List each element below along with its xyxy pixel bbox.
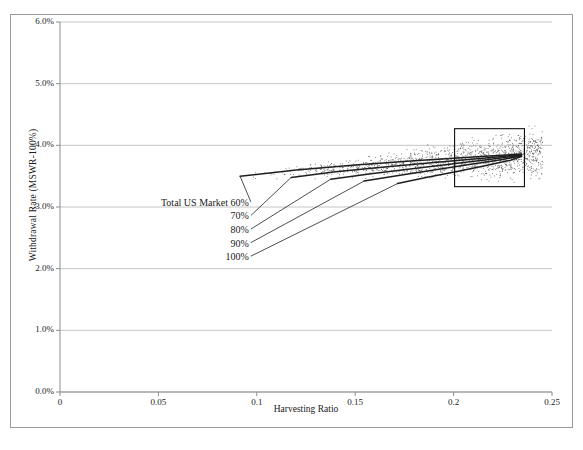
annotation-leader-lines [240, 176, 397, 256]
chart-container: Withdrawal Rate (MSWR-100%) Harvesting R… [0, 0, 583, 450]
gridlines [60, 22, 552, 392]
series-lines [240, 154, 521, 184]
scatter-points [248, 126, 543, 183]
axis-lines [56, 22, 552, 396]
plot-svg [0, 0, 583, 450]
